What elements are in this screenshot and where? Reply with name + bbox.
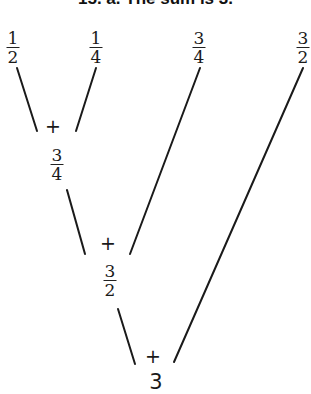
edge-sum2-to-sum3 xyxy=(118,309,135,364)
denominator: 2 xyxy=(7,50,20,65)
sum-result-2: 3 2 xyxy=(104,264,117,298)
plus-operator-2: + xyxy=(100,234,116,253)
numerator: 3 xyxy=(51,148,64,163)
numerator: 1 xyxy=(90,31,103,46)
denominator: 4 xyxy=(51,167,64,182)
tree-edges xyxy=(0,0,311,394)
numerator: 3 xyxy=(193,31,206,46)
edge-sum1-to-sum2 xyxy=(67,190,85,254)
leaf-fraction-3: 3 4 xyxy=(193,31,206,65)
numerator: 3 xyxy=(104,264,117,279)
denominator: 2 xyxy=(297,50,310,65)
leaf-fraction-2: 1 4 xyxy=(90,31,103,65)
denominator: 2 xyxy=(104,283,117,298)
edge-quarter-to-sum1 xyxy=(76,68,96,131)
sum-result-1: 3 4 xyxy=(51,148,64,182)
numerator: 3 xyxy=(297,31,310,46)
plus-operator-3: + xyxy=(145,347,161,366)
leaf-fraction-1: 1 2 xyxy=(7,31,20,65)
plus-operator-1: + xyxy=(45,117,61,136)
denominator: 4 xyxy=(193,50,206,65)
edge-threehalves-to-sum3 xyxy=(174,68,303,362)
edge-threequarters-to-sum2 xyxy=(130,68,200,254)
denominator: 4 xyxy=(90,50,103,65)
final-sum: 3 xyxy=(149,372,162,393)
leaf-fraction-4: 3 2 xyxy=(297,31,310,65)
numerator: 1 xyxy=(7,31,20,46)
edge-half-to-sum1 xyxy=(17,68,37,131)
